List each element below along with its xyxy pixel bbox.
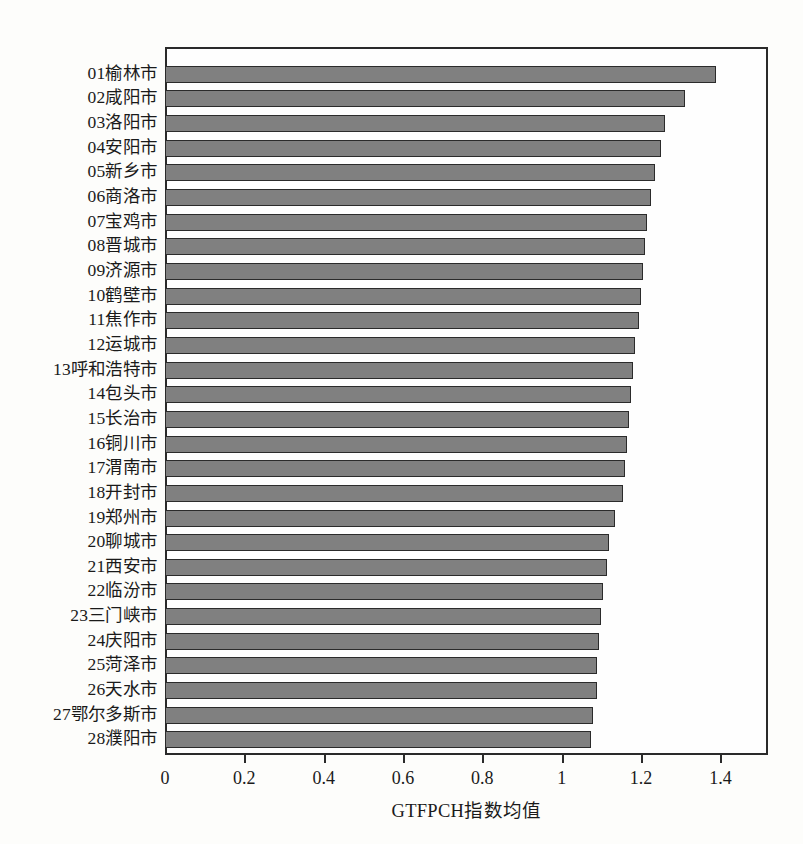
category-label: 11焦作市 [0, 309, 157, 329]
bar-row [165, 308, 768, 333]
bar [165, 411, 629, 428]
bar [165, 337, 635, 354]
x-axis-tick-label: 1.4 [709, 766, 732, 790]
x-axis-tick [482, 755, 484, 763]
bars-layer [165, 47, 768, 755]
category-label: 19郑州市 [0, 507, 157, 527]
category-label: 03洛阳市 [0, 112, 157, 132]
x-axis-tick-label: 0 [161, 766, 170, 790]
x-axis-tick-label: 1.2 [630, 766, 653, 790]
category-label: 05新乡市 [0, 161, 157, 181]
bar [165, 238, 645, 255]
bar [165, 485, 623, 502]
bar-row [165, 210, 768, 235]
category-label: 13呼和浩特市 [0, 359, 157, 379]
x-axis-tick [244, 755, 246, 763]
x-axis-ticks [165, 755, 768, 765]
category-label: 15长治市 [0, 408, 157, 428]
bar-row [165, 604, 768, 629]
bar [165, 534, 609, 551]
category-label: 04安阳市 [0, 137, 157, 157]
bar-row [165, 506, 768, 531]
category-label: 27鄂尔多斯市 [0, 704, 157, 724]
category-label: 22临汾市 [0, 580, 157, 600]
category-label: 21西安市 [0, 556, 157, 576]
bar [165, 436, 627, 453]
category-label: 09济源市 [0, 260, 157, 280]
x-axis-tick-label: 0.6 [392, 766, 415, 790]
category-label: 14包头市 [0, 383, 157, 403]
category-label: 25菏泽市 [0, 654, 157, 674]
category-label: 07宝鸡市 [0, 211, 157, 231]
gtfpch-bar-chart: 01榆林市02咸阳市03洛阳市04安阳市05新乡市06商洛市07宝鸡市08晋城市… [0, 0, 803, 844]
bar [165, 164, 655, 181]
bar [165, 583, 603, 600]
bar-row [165, 62, 768, 87]
x-axis-title: GTFPCH指数均值 [165, 796, 768, 822]
bar [165, 460, 625, 477]
x-axis-tick-label: 1 [557, 766, 566, 790]
category-label: 01榆林市 [0, 63, 157, 83]
bar-row [165, 185, 768, 210]
bar-row [165, 653, 768, 678]
bar-row [165, 678, 768, 703]
bar [165, 140, 661, 157]
category-label: 16铜川市 [0, 433, 157, 453]
bar-row [165, 555, 768, 580]
x-axis-tick-labels: 00.20.40.60.811.21.4 [0, 766, 803, 792]
category-label: 02咸阳市 [0, 87, 157, 107]
bar [165, 707, 593, 724]
x-axis-tick-label: 0.2 [233, 766, 256, 790]
category-label: 23三门峡市 [0, 605, 157, 625]
category-label: 26天水市 [0, 679, 157, 699]
bar [165, 510, 615, 527]
bar [165, 90, 685, 107]
bar-row [165, 703, 768, 728]
bar-row [165, 358, 768, 383]
bar-row [165, 333, 768, 358]
category-label: 06商洛市 [0, 186, 157, 206]
bar-row [165, 382, 768, 407]
bar [165, 657, 597, 674]
bar [165, 559, 607, 576]
bar-row [165, 530, 768, 555]
bar-row [165, 259, 768, 284]
bar-row [165, 407, 768, 432]
bar-row [165, 284, 768, 309]
bar [165, 288, 641, 305]
category-label: 17渭南市 [0, 457, 157, 477]
bar-row [165, 86, 768, 111]
bar [165, 682, 597, 699]
x-axis-tick [403, 755, 405, 763]
bar-row [165, 629, 768, 654]
bar [165, 386, 631, 403]
bar-row [165, 234, 768, 259]
x-axis-tick [720, 755, 722, 763]
bar-row [165, 579, 768, 604]
bar [165, 115, 665, 132]
category-label: 08晋城市 [0, 235, 157, 255]
bar [165, 189, 651, 206]
bar-row [165, 432, 768, 457]
bar [165, 66, 716, 83]
bar [165, 263, 643, 280]
category-label: 28濮阳市 [0, 728, 157, 748]
bar-row [165, 111, 768, 136]
category-label: 20聊城市 [0, 531, 157, 551]
category-label: 10鹤壁市 [0, 285, 157, 305]
bar-row [165, 136, 768, 161]
bar [165, 633, 599, 650]
bar-row [165, 456, 768, 481]
bar-row [165, 160, 768, 185]
category-label: 12运城市 [0, 334, 157, 354]
category-axis-labels: 01榆林市02咸阳市03洛阳市04安阳市05新乡市06商洛市07宝鸡市08晋城市… [0, 47, 157, 755]
category-label: 24庆阳市 [0, 630, 157, 650]
bar [165, 608, 601, 625]
x-axis-tick-label: 0.4 [312, 766, 335, 790]
x-axis-tick-label: 0.8 [471, 766, 494, 790]
x-axis-tick [562, 755, 564, 763]
bar [165, 214, 647, 231]
x-axis-tick [324, 755, 326, 763]
bar [165, 731, 591, 748]
bar-row [165, 481, 768, 506]
